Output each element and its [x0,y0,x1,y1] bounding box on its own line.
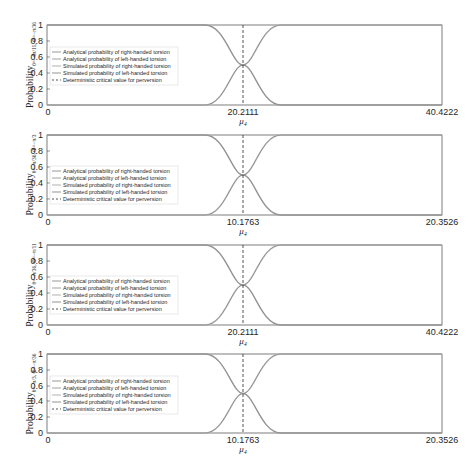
svg-text:0.8: 0.8 [30,256,43,266]
svg-text:0.8: 0.8 [30,146,43,156]
svg-text:0.4: 0.4 [30,68,43,78]
plot-svg: Probabilityθ=−π/36, Φ=−π/11 0 0.2 0.4 0.… [0,220,475,338]
svg-text:Deterministic critical value f: Deterministic critical value for pervers… [63,306,162,312]
svg-text:Simulated probability of left-: Simulated probability of left-handed tor… [63,399,167,405]
svg-text:Deterministic critical value f: Deterministic critical value for pervers… [63,406,162,412]
svg-text:0.6: 0.6 [30,381,43,391]
svg-text:1: 1 [38,20,43,30]
svg-text:0.2: 0.2 [30,84,43,94]
svg-text:0.8: 0.8 [30,365,43,375]
svg-text:0: 0 [38,428,43,438]
svg-text:0.2: 0.2 [30,304,43,314]
svg-text:0.4: 0.4 [30,178,43,188]
svg-text:Simulated probability of right: Simulated probability of right-handed to… [63,182,171,188]
svg-text:μ4: μ4 [238,444,247,455]
legend: Analytical probability of right-handed t… [50,166,178,204]
svg-text:0.6: 0.6 [30,52,43,62]
svg-text:0: 0 [38,210,43,220]
svg-text:Simulated probability of left-: Simulated probability of left-handed tor… [63,299,167,305]
svg-text:Analytical probability of left: Analytical probability of left-handed to… [63,285,166,291]
svg-text:Analytical probability of left: Analytical probability of left-handed to… [63,56,166,62]
plot-svg: Probabilityθ=−4π/11, Φ=−π/36 0 0.2 0.4 0… [0,0,475,118]
svg-text:Deterministic critical value f: Deterministic critical value for pervers… [63,77,162,83]
svg-text:0.4: 0.4 [30,396,43,406]
plot-svg: Probabilityθ=−π/3, Φ=−π/36 0 0.2 0.4 0.6… [0,329,475,447]
plot-svg: Probabilityθ=−π/36, Φ=−π/3 0 0.2 0.4 0.6… [0,110,475,228]
svg-text:Simulated probability of right: Simulated probability of right-handed to… [63,392,171,398]
svg-text:Analytical probability of left: Analytical probability of left-handed to… [63,175,166,181]
svg-text:Analytical probability of righ: Analytical probability of right-handed t… [63,278,170,284]
svg-text:0.2: 0.2 [30,194,43,204]
legend: Analytical probability of right-handed t… [50,47,178,85]
legend: Analytical probability of right-handed t… [50,276,178,314]
svg-text:Simulated probability of left-: Simulated probability of left-handed tor… [63,189,167,195]
svg-text:Simulated probability of right: Simulated probability of right-handed to… [63,63,171,69]
subplot-1: Probabilityθ=−4π/11, Φ=−π/36 0 0.2 0.4 0… [0,0,475,118]
x-axis-label-4: μ4 [0,442,475,456]
subplot-2: Probabilityθ=−π/36, Φ=−π/3 0 0.2 0.4 0.6… [0,110,475,228]
svg-text:Deterministic critical value f: Deterministic critical value for pervers… [63,196,162,202]
subplot-4: Probabilityθ=−π/3, Φ=−π/36 0 0.2 0.4 0.6… [0,329,475,447]
y-axis-label: Probabilityθ=−4π/11, Φ=−π/36 [25,22,37,108]
legend: Analytical probability of right-handed t… [50,376,178,414]
svg-text:0.4: 0.4 [30,288,43,298]
svg-text:0.2: 0.2 [30,412,43,422]
svg-text:Simulated probability of right: Simulated probability of right-handed to… [63,292,171,298]
svg-text:0.6: 0.6 [30,162,43,172]
svg-text:Probabilityθ=−4π/11, Φ=−π/36: Probabilityθ=−4π/11, Φ=−π/36 [25,22,37,108]
svg-text:1: 1 [38,130,43,140]
subplot-3: Probabilityθ=−π/36, Φ=−π/11 0 0.2 0.4 0.… [0,220,475,338]
svg-text:Analytical probability of righ: Analytical probability of right-handed t… [63,49,170,55]
svg-text:0.6: 0.6 [30,272,43,282]
svg-text:1: 1 [38,240,43,250]
svg-text:0.8: 0.8 [30,36,43,46]
svg-text:Analytical probability of righ: Analytical probability of right-handed t… [63,378,170,384]
svg-text:Analytical probability of left: Analytical probability of left-handed to… [63,385,166,391]
svg-text:0: 0 [38,100,43,110]
svg-text:Simulated probability of left-: Simulated probability of left-handed tor… [63,70,167,76]
svg-text:1: 1 [38,349,43,359]
svg-text:Analytical probability of righ: Analytical probability of right-handed t… [63,168,170,174]
